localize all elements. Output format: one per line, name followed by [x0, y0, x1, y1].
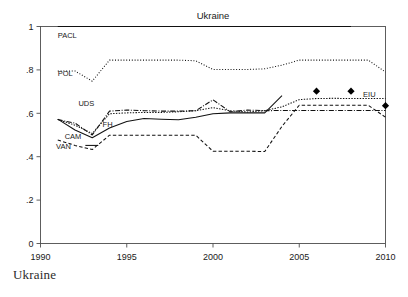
x-tick-label: 1990 — [30, 252, 50, 262]
y-tick-label: .4 — [26, 152, 34, 162]
x-tick-label: 2010 — [375, 252, 395, 262]
series-label-pacl: PACL — [58, 31, 77, 40]
series-label-cam: CAM — [65, 132, 82, 141]
series-label-pol: POL — [58, 69, 73, 78]
x-tick-label: 2005 — [289, 252, 309, 262]
chart-title: Ukraine — [197, 10, 230, 21]
x-tick-label: 1995 — [117, 252, 137, 262]
series-label-eiu: EIU — [363, 90, 376, 99]
y-tick-label: 0 — [28, 239, 33, 249]
series-label-uds: UDS — [78, 99, 94, 108]
y-tick-label: .8 — [26, 65, 34, 75]
y-tick-label: 1 — [28, 22, 33, 32]
series-label-van: VAN — [56, 142, 71, 151]
y-tick-label: .6 — [26, 109, 34, 119]
x-tick-label: 2000 — [203, 252, 223, 262]
y-tick-label: .2 — [26, 195, 34, 205]
chart-figure: Ukraine0.2.4.6.8119901995200020052010PAC… — [0, 0, 408, 297]
figure-caption: Ukraine — [13, 267, 56, 283]
